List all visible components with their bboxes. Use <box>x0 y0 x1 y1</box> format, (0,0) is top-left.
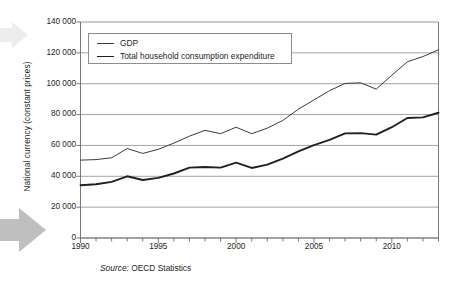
source-note: Source: OECD Statistics <box>100 263 191 273</box>
legend-label: GDP <box>120 39 138 47</box>
x-tick-label: 2000 <box>216 243 256 251</box>
x-tick-label: 1990 <box>61 243 101 251</box>
chart-figure: National currency (constant prices) 020 … <box>0 0 461 286</box>
legend-item-gdp: GDP <box>97 37 138 50</box>
x-tick-label: 2005 <box>294 243 334 251</box>
data-series-group <box>81 50 439 185</box>
legend-item-household: Total household consumption expenditure <box>97 50 275 63</box>
chart-legend: GDP Total household consumption expendit… <box>88 33 292 64</box>
x-tick-label: 1995 <box>138 243 178 251</box>
x-tick-label: 2010 <box>372 243 412 251</box>
legend-line-swatch-icon <box>97 43 114 44</box>
source-text: OECD Statistics <box>129 263 191 273</box>
legend-label: Total household consumption expenditure <box>120 52 275 60</box>
y-axis-ticks <box>77 22 81 238</box>
source-prefix: Source: <box>100 263 129 273</box>
legend-line-swatch-icon <box>97 56 114 57</box>
